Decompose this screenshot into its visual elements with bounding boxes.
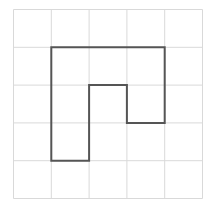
shape-outline [51,47,164,160]
grid-lines [14,10,203,199]
grid-diagram [0,0,211,209]
